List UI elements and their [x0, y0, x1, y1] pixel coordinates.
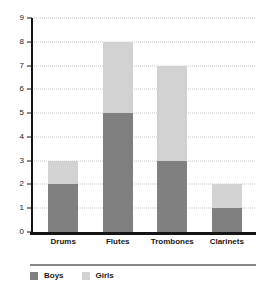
- x-axis-line: [30, 232, 256, 235]
- bar-segment-girls[interactable]: [157, 66, 187, 161]
- chart-legend: BoysGirls: [30, 272, 114, 280]
- bar-segment-boys[interactable]: [212, 208, 242, 232]
- legend-separator-rule: [30, 264, 256, 266]
- bar-segment-boys[interactable]: [157, 161, 187, 232]
- x-axis-category-label: Clarinets: [210, 238, 244, 246]
- bar-group[interactable]: [157, 18, 187, 232]
- bar-segment-boys[interactable]: [103, 113, 133, 232]
- bar-segment-girls[interactable]: [103, 42, 133, 113]
- bar-group[interactable]: [212, 18, 242, 232]
- legend-swatch-icon: [30, 272, 38, 280]
- stacked-bar-chart: 0123456789 DrumsFlutesTrombonesClarinets…: [0, 0, 273, 289]
- x-axis-category-label: Drums: [51, 238, 76, 246]
- bar-segment-girls[interactable]: [48, 161, 78, 185]
- x-axis-category-label: Trombones: [151, 238, 194, 246]
- plot-area: 0123456789 DrumsFlutesTrombonesClarinets: [0, 0, 273, 246]
- legend-swatch-icon: [82, 272, 90, 280]
- legend-label: Boys: [44, 272, 64, 280]
- legend-item[interactable]: Girls: [82, 272, 114, 280]
- x-axis-category-label: Flutes: [106, 238, 130, 246]
- bars-layer: [0, 0, 273, 246]
- legend-item[interactable]: Boys: [30, 272, 64, 280]
- legend-label: Girls: [96, 272, 114, 280]
- bar-segment-boys[interactable]: [48, 184, 78, 232]
- bar-segment-girls[interactable]: [212, 184, 242, 208]
- bar-group[interactable]: [103, 18, 133, 232]
- bar-group[interactable]: [48, 18, 78, 232]
